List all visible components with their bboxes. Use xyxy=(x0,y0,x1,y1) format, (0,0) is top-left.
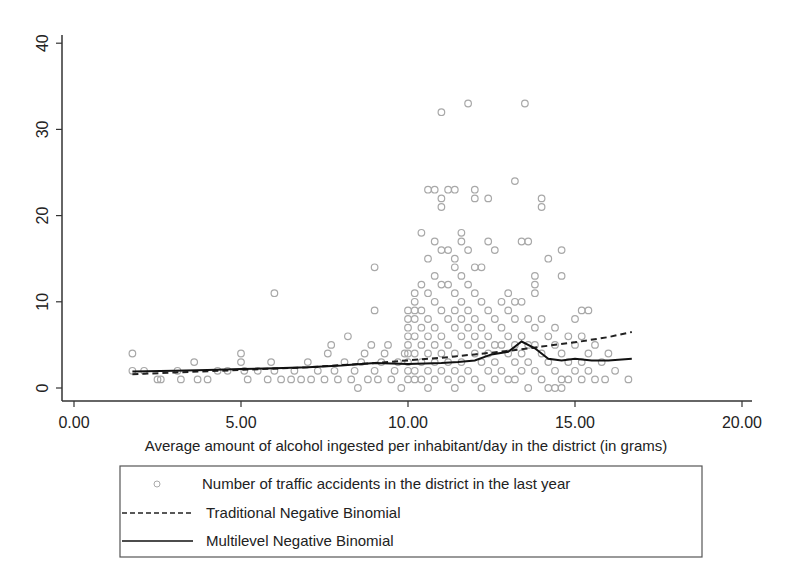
data-point xyxy=(391,368,398,375)
data-point xyxy=(532,281,539,288)
x-tick-label: 5.00 xyxy=(225,414,256,431)
data-point xyxy=(238,350,245,357)
data-point xyxy=(478,342,485,349)
data-point xyxy=(572,316,579,323)
data-point xyxy=(315,368,322,375)
data-point xyxy=(431,238,438,245)
y-tick-label: 0 xyxy=(34,383,51,392)
data-point xyxy=(288,376,295,383)
data-point xyxy=(525,385,532,392)
data-point xyxy=(478,299,485,306)
data-point xyxy=(452,186,459,193)
data-point xyxy=(465,100,472,107)
data-point xyxy=(592,376,599,383)
data-point xyxy=(298,376,305,383)
data-point xyxy=(498,368,505,375)
data-point xyxy=(438,368,445,375)
data-point xyxy=(478,385,485,392)
x-ticks: 0.005.0010.0015.0020.00 xyxy=(58,401,762,431)
legend: Number of traffic accidents in the distr… xyxy=(120,466,702,557)
data-point xyxy=(431,299,438,306)
data-point xyxy=(538,316,545,323)
data-point xyxy=(411,316,418,323)
data-point xyxy=(129,350,136,357)
data-point xyxy=(321,376,328,383)
data-point xyxy=(418,342,425,349)
data-point xyxy=(238,359,245,366)
data-point xyxy=(411,290,418,297)
data-point xyxy=(512,178,519,185)
data-point xyxy=(532,273,539,280)
y-tick-label: 30 xyxy=(34,120,51,138)
data-point xyxy=(552,324,559,331)
data-point xyxy=(465,368,472,375)
data-point xyxy=(405,307,412,314)
data-point xyxy=(472,195,479,202)
data-point xyxy=(492,247,499,254)
data-point xyxy=(431,342,438,349)
data-point xyxy=(558,376,565,383)
x-axis-title: Average amount of alcohol ingested per i… xyxy=(145,437,668,454)
data-point xyxy=(371,368,378,375)
data-point xyxy=(492,376,499,383)
multilevel-nb-line xyxy=(132,342,631,372)
data-point xyxy=(438,307,445,314)
data-point xyxy=(425,333,432,340)
data-point xyxy=(425,385,432,392)
legend-label-multilevel: Multilevel Negative Binomial xyxy=(206,532,394,549)
data-point xyxy=(498,342,505,349)
data-point xyxy=(264,376,271,383)
data-point xyxy=(472,264,479,271)
data-point xyxy=(418,324,425,331)
data-point xyxy=(458,316,465,323)
data-point xyxy=(545,333,552,340)
data-point xyxy=(518,299,525,306)
data-point xyxy=(438,195,445,202)
data-point xyxy=(525,359,532,366)
data-point xyxy=(308,376,315,383)
data-point xyxy=(505,290,512,297)
data-point xyxy=(518,238,525,245)
data-point xyxy=(371,307,378,314)
data-point xyxy=(411,333,418,340)
data-point xyxy=(445,186,452,193)
data-point xyxy=(438,350,445,357)
data-point xyxy=(492,359,499,366)
data-point xyxy=(512,359,519,366)
data-point xyxy=(361,350,368,357)
data-point xyxy=(425,368,432,375)
data-point xyxy=(472,333,479,340)
data-point xyxy=(472,376,479,383)
data-point xyxy=(411,376,418,383)
data-point xyxy=(522,100,529,107)
data-point xyxy=(465,247,472,254)
data-point xyxy=(452,264,459,271)
data-point xyxy=(405,342,412,349)
data-point xyxy=(381,350,388,357)
data-point xyxy=(268,359,275,366)
data-point xyxy=(558,247,565,254)
data-point xyxy=(278,376,285,383)
data-point xyxy=(472,186,479,193)
data-point xyxy=(351,368,358,375)
data-point xyxy=(244,376,251,383)
data-point xyxy=(552,368,559,375)
data-point xyxy=(452,324,459,331)
data-point xyxy=(538,195,545,202)
data-point xyxy=(465,281,472,288)
y-tick-label: 40 xyxy=(34,34,51,52)
data-point xyxy=(405,333,412,340)
data-point xyxy=(425,255,432,262)
data-point xyxy=(405,316,412,323)
data-point xyxy=(411,299,418,306)
data-point xyxy=(438,204,445,211)
data-point xyxy=(625,376,632,383)
data-point xyxy=(425,350,432,357)
data-point xyxy=(458,333,465,340)
data-point xyxy=(178,376,185,383)
data-point xyxy=(558,385,565,392)
data-point xyxy=(431,273,438,280)
x-tick-label: 15.00 xyxy=(555,414,595,431)
data-point xyxy=(518,350,525,357)
data-point xyxy=(525,238,532,245)
